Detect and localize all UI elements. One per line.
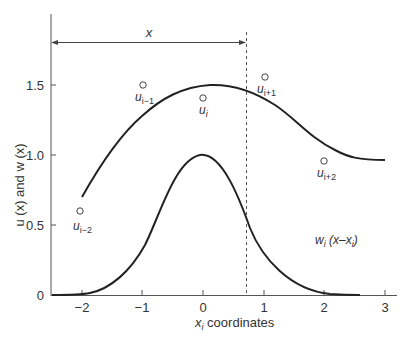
x-axis-label: xi coordinates: [194, 315, 275, 332]
y-axis-label: u (x) and w (x): [12, 143, 27, 226]
node-label: ui+2: [317, 166, 336, 182]
dimension-label: x: [145, 25, 153, 40]
x-tick-label: 0: [199, 300, 206, 315]
dimension-arrow: x: [51, 25, 246, 45]
node-label: ui: [199, 103, 209, 119]
node-marker: [200, 95, 206, 101]
node-marker: [321, 158, 327, 164]
w-curve: [52, 155, 360, 295]
y-tick-label: 1.5: [26, 78, 44, 93]
node-label: ui−2: [73, 219, 92, 235]
node-marker: [262, 74, 268, 80]
x-tick-label: −2: [75, 300, 90, 315]
y-tick-label: 1.0: [26, 148, 44, 163]
x-tick-label: 2: [320, 300, 327, 315]
node-marker: [77, 208, 83, 214]
node-label: ui−1: [135, 90, 154, 106]
u-curve: [82, 85, 385, 197]
chart-canvas: 1.5 1.0 0.5 0 −2 −1 0 1 2 3 xi coordinat…: [0, 0, 414, 340]
x-tick-label: 3: [381, 300, 388, 315]
y-tick-label: 0.5: [26, 218, 44, 233]
x-tick-label: −1: [135, 300, 150, 315]
x-tick-label: 1: [260, 300, 267, 315]
node-label: ui+1: [257, 82, 276, 98]
node-marker: [140, 82, 146, 88]
weight-function-label: wi (x–xi): [315, 233, 358, 249]
y-tick-label: 0: [37, 288, 44, 303]
